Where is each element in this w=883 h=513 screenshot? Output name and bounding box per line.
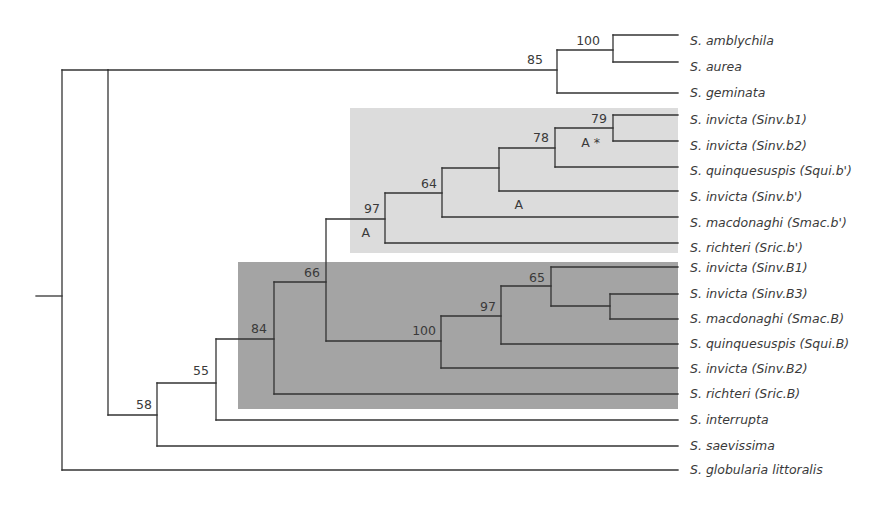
taxon-label: S. invicta (Sinv.B3) — [690, 286, 808, 301]
support-value: 58 — [136, 397, 152, 412]
support-value: 100 — [412, 323, 436, 338]
clade-B-box — [238, 262, 678, 409]
taxon-label: S. aurea — [690, 59, 742, 74]
taxon-label: S. invicta (Sinv.b2) — [690, 138, 807, 153]
taxon-label: S. macdonaghi (Smac.B) — [690, 311, 844, 326]
support-value: 97 — [364, 201, 380, 216]
taxon-label: S. geminata — [690, 85, 765, 100]
taxon-label: S. richteri (Sric.B) — [690, 386, 800, 401]
taxon-label: S. globularia littoralis — [690, 462, 823, 477]
support-value: 85 — [527, 52, 543, 67]
taxon-label: S. invicta (Sinv.B2) — [690, 361, 808, 376]
clade-b-prime-box — [350, 108, 678, 253]
support-value: 100 — [576, 33, 600, 48]
support-value: A * — [581, 135, 600, 150]
taxon-label: S. invicta (Sinv.b') — [690, 189, 802, 204]
taxon-label: S. quinquesuspis (Squi.b') — [690, 163, 852, 178]
support-value: 65 — [529, 270, 545, 285]
support-value: 79 — [591, 111, 607, 126]
clade-highlight-boxes — [238, 108, 678, 409]
support-value: 84 — [251, 321, 267, 336]
support-value: 66 — [304, 265, 320, 280]
taxon-labels: S. amblychilaS. aureaS. geminataS. invic… — [690, 33, 852, 477]
taxon-label: S. macdonaghi (Smac.b') — [690, 215, 847, 230]
support-value: A — [361, 225, 370, 240]
taxon-label: S. invicta (Sinv.b1) — [690, 112, 807, 127]
support-value: 64 — [421, 176, 437, 191]
taxon-label: S. saevissima — [690, 438, 775, 453]
taxon-label: S. amblychila — [690, 33, 774, 48]
taxon-label: S. quinquesuspis (Squi.B) — [690, 336, 849, 351]
support-value: 97 — [480, 299, 496, 314]
taxon-label: S. invicta (Sinv.B1) — [690, 260, 808, 275]
phylogenetic-tree: 851005855846697A64A7879A *1009765 S. amb… — [0, 0, 883, 513]
taxon-label: S. richteri (Sric.b') — [690, 240, 803, 255]
support-value: 55 — [193, 363, 209, 378]
support-value: 78 — [533, 130, 549, 145]
support-value: A — [514, 197, 523, 212]
taxon-label: S. interrupta — [690, 412, 769, 427]
